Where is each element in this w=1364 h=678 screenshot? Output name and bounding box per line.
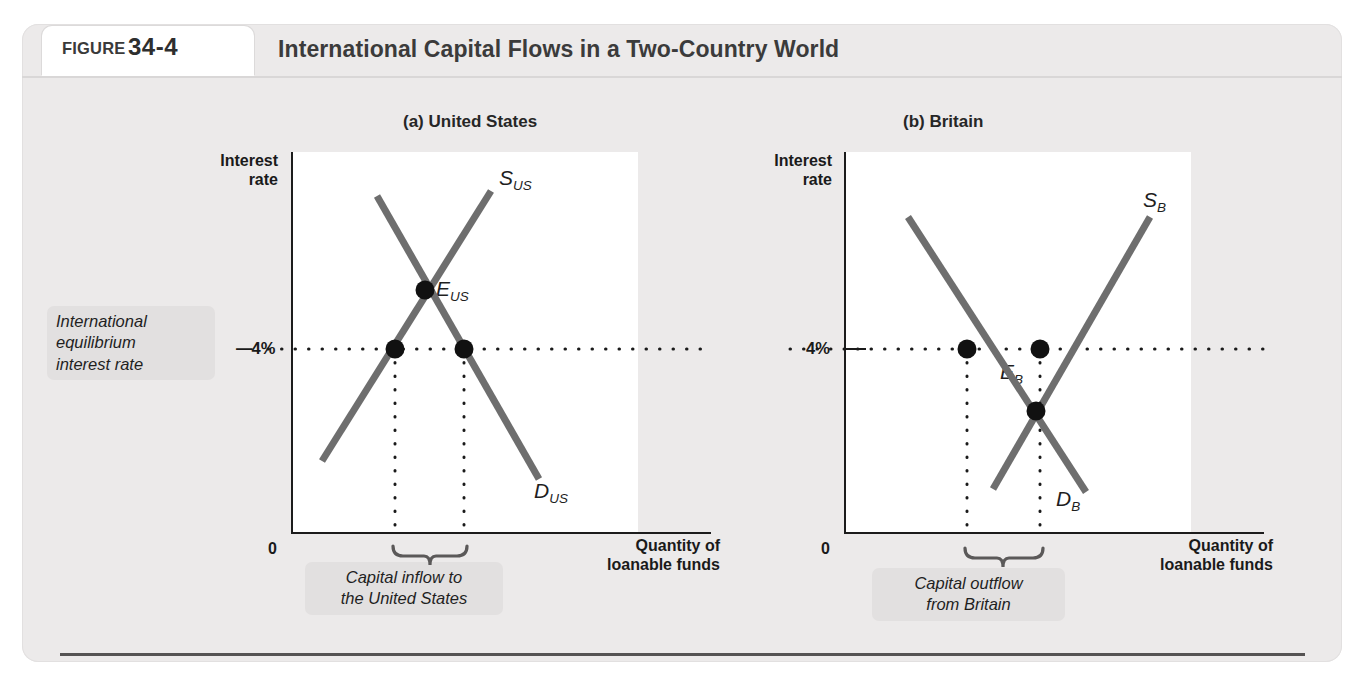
equilibrium-point-britain: [1027, 402, 1046, 421]
supply-point-at-world-rate-united-states: [386, 340, 405, 359]
capital-inflow-brace: [393, 546, 467, 565]
figure-root: FIGURE 34-4 International Capital Flows …: [0, 0, 1364, 678]
demand-curve-britain: [908, 217, 1086, 492]
figure-bottom-rule: [60, 653, 1305, 656]
supply-curve-britain: [993, 217, 1150, 489]
demand-point-at-world-rate-britain: [958, 340, 977, 359]
supply-point-at-world-rate-britain: [1031, 340, 1050, 359]
demand-point-at-world-rate-united-states: [455, 340, 474, 359]
chart-vector-layer: [0, 0, 1364, 678]
supply-curve-united-states: [322, 191, 491, 461]
capital-outflow-brace: [965, 548, 1043, 567]
equilibrium-point-united-states: [416, 281, 435, 300]
